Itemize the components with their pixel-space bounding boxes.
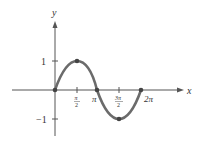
sine-chart: y x 1 −1 π 2 π 3π 2 2π [0,0,203,141]
y-axis-label: y [51,7,57,18]
point-max [75,59,80,64]
x-tick-label-2pi: 2π [144,94,154,104]
y-axis-arrow-icon [53,21,58,28]
x-tick-label-pi: π [92,94,97,104]
x-tick-label-3pi-half-num: 3π [114,95,122,101]
y-tick-label-1: 1 [41,56,46,67]
x-axis-label: x [186,85,192,96]
y-tick-label-neg1: −1 [36,114,47,125]
point-min [117,117,122,122]
point-2pi [139,88,144,93]
point-origin [53,88,58,93]
point-pi [95,88,100,93]
x-tick-label-pi-half-num: π [75,95,79,101]
x-axis-arrow-icon [177,88,184,93]
x-tick-label-pi-half-den: 2 [75,102,78,108]
x-tick-label-3pi-half-den: 2 [117,102,120,108]
